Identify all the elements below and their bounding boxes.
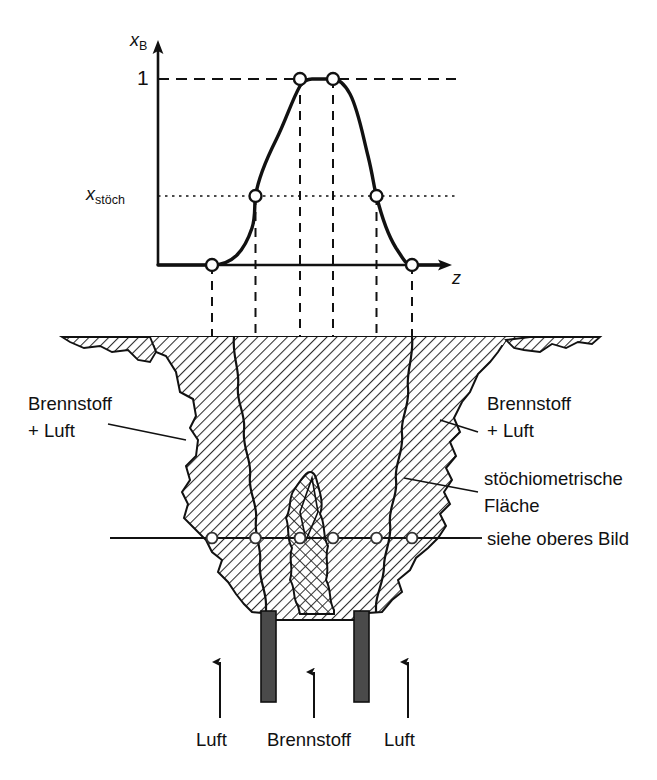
marker-rechts-eins [327,73,339,85]
section-marker-5 [371,533,382,544]
inlet-label-luft-right: Luft [384,728,415,751]
marker-rechts-null [406,259,418,271]
diagram-canvas [0,0,657,780]
marker-rechts-stoech [371,190,383,202]
marker-links-null [206,259,218,271]
concentration-curve [158,79,444,265]
figure-root: xB 1 xstöch z Brennstoff + Luft Brennsto… [0,0,657,780]
hatched-top-left [62,337,156,362]
y-axis-label: xB [130,30,147,53]
section-marker-2 [250,533,261,544]
chart-droplines [212,79,412,340]
section-marker-6 [407,533,418,544]
annotation-left-mixture-line2: + Luft [28,419,75,442]
annotation-left-mixture-line1: Brennstoff [28,392,112,415]
x-axis-label: z [452,268,461,289]
inlet-arrows [220,662,408,718]
section-marker-1 [207,533,218,544]
nozzle-right [354,611,369,702]
annotation-stoech-surface-line2: Fläche [484,494,540,517]
y-axis-label-text: x [130,30,139,50]
y-tick-one: 1 [137,66,149,90]
chart-markers [206,73,418,271]
annotation-stoech-surface-line1: stöchiometrische [484,467,623,490]
annotation-right-mixture-line2: + Luft [487,419,534,442]
inlet-label-luft-left: Luft [196,728,227,751]
y-axis-label-subscript: B [139,39,147,53]
inlet-label-brennstoff: Brennstoff [267,728,351,751]
y-tick-stoech: xstöch [86,184,125,207]
concentration-chart [153,40,456,340]
outer-hatched-region [126,337,530,620]
section-marker-3 [295,533,306,544]
nozzle-left [261,611,276,702]
marker-links-eins [294,73,306,85]
hatched-top-right [506,337,600,352]
section-marker-4 [328,533,339,544]
leader-left-mixture [108,424,186,440]
marker-links-stoech [250,190,262,202]
annotation-see-above: siehe oberes Bild [487,527,629,550]
y-tick-stoech-subscript: stöch [95,193,125,207]
annotation-right-mixture-line1: Brennstoff [487,392,571,415]
y-tick-stoech-text: x [86,184,95,204]
